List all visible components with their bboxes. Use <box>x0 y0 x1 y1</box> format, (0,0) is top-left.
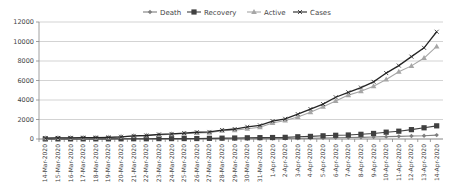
x-tick-label: 20-Mar-2020 <box>117 144 124 182</box>
series-line <box>45 46 436 138</box>
gridlines <box>39 22 443 139</box>
square-marker <box>219 136 224 141</box>
square-marker <box>182 136 187 141</box>
legend: DeathRecoveryActiveCases <box>143 9 331 17</box>
x-tick-label: 3-Apr-2020 <box>294 144 302 177</box>
x-marker <box>409 55 413 59</box>
y-tick-label: 10000 <box>13 38 34 46</box>
x-tick-label: 14-Apr-2020 <box>433 144 441 181</box>
x-tick-label: 2-Apr-2020 <box>281 144 289 177</box>
x-tick-label: 27-Mar-2020 <box>205 144 212 182</box>
x-tick-label: 18-Mar-2020 <box>92 144 99 182</box>
square-marker <box>169 136 174 141</box>
triangle-marker <box>434 43 440 48</box>
square-marker <box>434 123 439 128</box>
x-tick-label: 13-Apr-2020 <box>420 144 428 181</box>
legend-item-recovery: Recovery <box>187 9 236 17</box>
diamond-marker <box>148 10 152 14</box>
triangle-marker <box>383 77 389 82</box>
x-axis: 14-Mar-202015-Mar-202016-Mar-202017-Mar-… <box>39 139 443 182</box>
x-marker <box>397 64 401 68</box>
x-tick-label: 7-Apr-2020 <box>344 144 352 177</box>
line-chart: 020004000600080001000012000 14-Mar-20201… <box>0 0 454 194</box>
x-tick-label: 11-Apr-2020 <box>395 144 403 181</box>
y-tick-label: 0 <box>30 135 34 143</box>
legend-label: Recovery <box>204 9 236 17</box>
x-tick-label: 21-Mar-2020 <box>130 144 137 182</box>
y-tick-label: 8000 <box>17 57 34 65</box>
square-marker <box>421 125 426 130</box>
square-marker <box>295 134 300 139</box>
x-tick-label: 5-Apr-2020 <box>319 144 327 177</box>
x-tick-label: 6-Apr-2020 <box>332 144 340 177</box>
x-tick-label: 25-Mar-2020 <box>180 144 187 182</box>
square-marker <box>384 130 389 135</box>
diamond-marker <box>434 133 438 137</box>
legend-item-death: Death <box>143 9 181 17</box>
square-marker <box>207 136 212 141</box>
diamond-marker <box>397 134 401 138</box>
square-marker <box>270 135 275 140</box>
x-tick-label: 22-Mar-2020 <box>142 144 149 182</box>
x-tick-label: 24-Mar-2020 <box>168 144 175 182</box>
series-cases <box>43 30 438 140</box>
y-tick-label: 2000 <box>17 116 34 124</box>
legend-item-cases: Cases <box>293 9 331 17</box>
square-marker <box>245 135 250 140</box>
x-tick-label: 19-Mar-2020 <box>104 144 111 182</box>
square-marker <box>409 127 414 132</box>
legend-item-active: Active <box>247 9 286 17</box>
x-marker <box>384 71 388 75</box>
square-marker <box>371 131 376 136</box>
series-line <box>45 32 436 138</box>
x-marker <box>435 30 439 34</box>
legend-label: Death <box>160 9 181 17</box>
series-active <box>43 43 440 140</box>
square-marker <box>191 9 196 14</box>
x-tick-label: 10-Apr-2020 <box>382 144 390 181</box>
square-marker <box>396 129 401 134</box>
x-tick-label: 15-Mar-2020 <box>54 144 61 182</box>
x-tick-label: 9-Apr-2020 <box>370 144 378 177</box>
legend-label: Active <box>264 9 286 17</box>
legend-label: Cases <box>310 9 331 17</box>
square-marker <box>346 132 351 137</box>
diamond-marker <box>384 134 388 138</box>
x-tick-label: 14-Mar-2020 <box>41 144 48 182</box>
x-tick-label: 17-Mar-2020 <box>79 144 86 182</box>
x-tick-label: 23-Mar-2020 <box>155 144 162 182</box>
x-tick-label: 4-Apr-2020 <box>306 144 314 177</box>
x-tick-label: 26-Mar-2020 <box>193 144 200 182</box>
x-tick-label: 30-Mar-2020 <box>243 144 250 182</box>
diamond-marker <box>409 134 413 138</box>
square-marker <box>358 132 363 137</box>
x-marker <box>422 46 426 50</box>
series-lines <box>43 30 440 142</box>
square-marker <box>283 135 288 140</box>
x-tick-label: 31-Mar-2020 <box>256 144 263 182</box>
y-tick-label: 4000 <box>17 96 34 104</box>
y-tick-label: 12000 <box>13 18 34 26</box>
diamond-marker <box>422 133 426 137</box>
square-marker <box>333 133 338 138</box>
x-tick-label: 1-Apr-2020 <box>269 144 277 177</box>
x-tick-label: 16-Mar-2020 <box>67 144 74 182</box>
x-tick-label: 28-Mar-2020 <box>218 144 225 182</box>
square-marker <box>320 133 325 138</box>
x-tick-label: 8-Apr-2020 <box>357 144 365 177</box>
triangle-marker <box>409 63 415 68</box>
y-tick-label: 6000 <box>17 77 34 85</box>
x-tick-label: 12-Apr-2020 <box>407 144 415 181</box>
square-marker <box>232 135 237 140</box>
square-marker <box>257 135 262 140</box>
y-axis: 020004000600080001000012000 <box>13 18 39 143</box>
square-marker <box>194 136 199 141</box>
square-marker <box>308 134 313 139</box>
x-tick-label: 29-Mar-2020 <box>231 144 238 182</box>
